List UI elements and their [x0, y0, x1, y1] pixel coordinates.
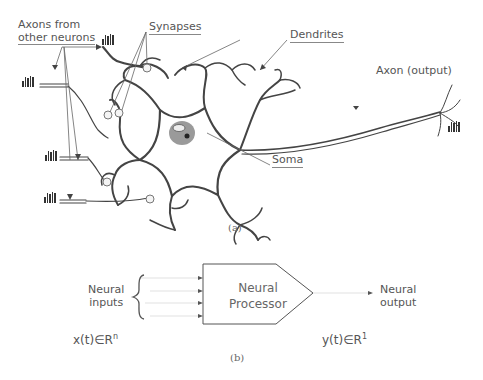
- nucleolus: [185, 134, 190, 139]
- soma-outline: [140, 108, 240, 196]
- synapse-1: [143, 64, 151, 72]
- spike-train-icon: [448, 121, 460, 132]
- input-brace: [133, 275, 144, 319]
- input-space-label: x(t)∈Rn: [73, 332, 118, 347]
- caption-b: (b): [230, 352, 244, 363]
- axons-from-label: Axons from other neurons: [18, 19, 95, 45]
- neural-processor-label: Neural Processor: [218, 281, 298, 312]
- neuron-diagram: [0, 0, 483, 380]
- spike-train-icon: [44, 192, 56, 203]
- soma-label: Soma: [272, 154, 303, 168]
- synapse-4: [103, 178, 111, 186]
- axon-output-label: Axon (output): [376, 65, 452, 78]
- dendrites-label: Dendrites: [290, 29, 344, 43]
- caption-a: (a): [228, 222, 242, 233]
- synapse-2: [104, 111, 112, 119]
- output-space-label: y(t)∈R1: [322, 332, 367, 347]
- neural-output-label: Neural output: [380, 284, 416, 309]
- spike-train-icon: [45, 150, 57, 161]
- synapse-5: [146, 195, 154, 203]
- neural-inputs-label: Neural inputs: [88, 284, 124, 309]
- spike-train-icon: [22, 76, 34, 87]
- synapse-3: [115, 109, 123, 117]
- nucleolus-ring: [173, 125, 185, 132]
- synapses-label: Synapses: [149, 21, 201, 35]
- spike-train-icon: [102, 34, 114, 45]
